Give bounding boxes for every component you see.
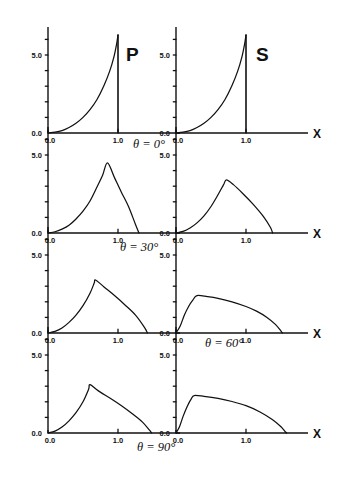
curve-row0-col1 [176,35,246,133]
y-label-zero-row2-col1: 0.0 [160,329,170,338]
column-heading-s: S [256,44,269,66]
x-axis-name-row1: X [313,227,321,241]
x-label-zero-row1-col0: 0.0 [45,236,55,245]
y-label-zero-row0-col0: 0.0 [32,129,42,138]
row-label-theta-60: θ = 60° [205,336,243,351]
y-label-zero-row2-col0: 0.0 [32,329,42,338]
figure-panel-grid: XXXX0.05.00.01.00.05.00.01.00.05.00.01.0… [0,0,339,480]
curve-row1-col0 [48,163,139,233]
x-axis-name-row2: X [313,327,321,341]
x-label-zero-row1-col1: 0.0 [173,236,183,245]
y-label-zero-row1-col0: 0.0 [32,229,42,238]
y-label-five-row0-col1: 5.0 [160,51,170,60]
y-label-five-row3-col0: 5.0 [32,351,42,360]
y-label-zero-row3-col1: 0.0 [160,429,170,438]
plot-canvas: XXXX0.05.00.01.00.05.00.01.00.05.00.01.0… [0,0,339,480]
y-label-five-row2-col0: 5.0 [32,251,42,260]
curve-row3-col0 [48,385,152,433]
curve-row0-col0 [48,35,118,133]
x-label-one-row3-col1: 1.0 [241,436,251,445]
curve-row2-col0 [48,280,147,333]
y-label-five-row3-col1: 5.0 [160,351,170,360]
y-label-five-row1-col0: 5.0 [32,151,42,160]
x-axis-name-row3: X [313,427,321,441]
row-label-theta-30: θ = 30° [120,240,158,255]
x-label-one-row2-col0: 1.0 [113,336,123,345]
y-label-zero-row3-col0: 0.0 [32,429,42,438]
y-label-five-row0-col0: 5.0 [32,51,42,60]
x-axis-name-row0: X [313,127,321,141]
curve-row3-col1 [176,395,287,433]
x-label-one-row1-col1: 1.0 [241,236,251,245]
row-label-theta-90: θ = 90° [137,440,175,455]
column-heading-p: P [126,44,139,66]
x-label-zero-row0-col0: 0.0 [45,136,55,145]
x-label-one-row0-col0: 1.0 [113,136,123,145]
curve-row1-col1 [176,180,273,233]
curve-row2-col1 [176,295,282,333]
x-label-zero-row0-col1: 0.0 [173,136,183,145]
x-label-zero-row3-col0: 0.0 [45,436,55,445]
x-label-zero-row2-col0: 0.0 [45,336,55,345]
y-label-five-row2-col1: 5.0 [160,251,170,260]
x-label-one-row3-col0: 1.0 [113,436,123,445]
row-label-theta-0: θ = 0° [133,137,165,152]
x-label-zero-row2-col1: 0.0 [173,336,183,345]
y-label-zero-row1-col1: 0.0 [160,229,170,238]
x-label-one-row0-col1: 1.0 [241,136,251,145]
